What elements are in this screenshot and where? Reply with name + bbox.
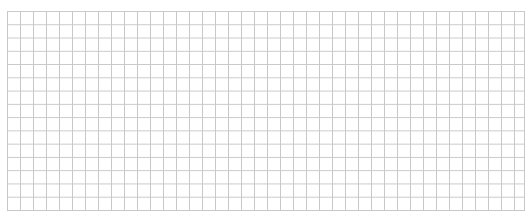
graph-paper-grid (7, 11, 525, 211)
